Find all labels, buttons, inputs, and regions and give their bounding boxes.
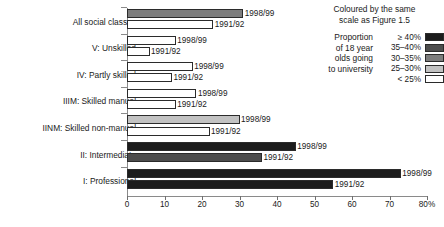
bar-value-label: 1991/92 — [174, 73, 204, 82]
x-axis-tick-label: 20 — [197, 200, 206, 209]
bar — [127, 89, 196, 98]
legend-range-label: < 25% — [398, 75, 421, 84]
bar-value-label: 1998/99 — [194, 62, 224, 71]
x-axis-tick-label: 50 — [310, 200, 319, 209]
x-axis-tick-label: 80% — [419, 200, 435, 209]
legend-range-label: 35–40% — [391, 43, 421, 52]
legend-row: 30–35% — [377, 53, 444, 64]
legend-description-line: of 18 year — [305, 43, 373, 54]
figure-grouped-bar-chart: 01020304050607080%All social classes1998… — [0, 0, 444, 227]
bar-value-label: 1998/99 — [245, 9, 275, 18]
x-axis-tick — [315, 196, 316, 200]
legend-swatch — [425, 33, 444, 41]
legend-swatch — [425, 75, 444, 83]
category-label: IIIM: Skilled manual — [63, 97, 136, 106]
legend-row: 25–30% — [377, 64, 444, 75]
bar-value-label: 1998/99 — [402, 169, 432, 178]
bar — [127, 180, 333, 189]
x-axis-tick — [427, 196, 428, 200]
x-axis-tick — [127, 196, 128, 200]
x-axis-tick — [165, 196, 166, 200]
legend-row: 35–40% — [377, 43, 444, 54]
x-axis-tick-label: 30 — [235, 200, 244, 209]
category-axis-tick — [121, 113, 127, 114]
x-axis-tick-label: 60 — [347, 200, 356, 209]
legend-swatch — [425, 54, 444, 62]
legend-body: Proportionof 18 yearolds goingto univers… — [305, 32, 444, 85]
legend: Coloured by the same scale as Figure 1.5… — [305, 4, 444, 85]
legend-description-line: to university — [305, 64, 373, 75]
bar-value-label: 1991/92 — [215, 20, 245, 29]
category-axis-tick — [121, 87, 127, 88]
x-axis-tick — [240, 196, 241, 200]
bar — [127, 36, 176, 45]
x-axis-tick — [352, 196, 353, 200]
bar-value-label: 1991/92 — [177, 100, 207, 109]
legend-range-label: 30–35% — [391, 54, 421, 63]
bar-value-label: 1998/99 — [198, 89, 228, 98]
x-axis-tick-label: 0 — [125, 200, 130, 209]
category-axis-tick — [121, 7, 127, 8]
x-axis-tick — [277, 196, 278, 200]
legend-description-line: Proportion — [305, 32, 373, 43]
legend-range-label: ≥ 40% — [398, 33, 421, 42]
category-axis-tick — [121, 60, 127, 61]
bar-value-label: 1998/99 — [177, 36, 207, 45]
bar — [127, 100, 176, 109]
legend-swatch — [425, 65, 444, 73]
bar — [127, 62, 193, 71]
legend-description: Proportionof 18 yearolds goingto univers… — [305, 32, 373, 74]
legend-description-line: olds going — [305, 53, 373, 64]
legend-row: ≥ 40% — [377, 32, 444, 43]
bar — [127, 20, 213, 29]
x-axis-tick — [202, 196, 203, 200]
legend-rows: ≥ 40%35–40%30–35%25–30%< 25% — [377, 32, 444, 85]
category-label: IINM: Skilled non-manual — [42, 124, 136, 133]
category-axis-tick — [121, 34, 127, 35]
legend-title-line-2: scale as Figure 1.5 — [305, 15, 444, 26]
bar — [127, 47, 150, 56]
legend-swatch — [425, 44, 444, 52]
x-axis-tick-label: 10 — [160, 200, 169, 209]
bar-value-label: 1991/92 — [335, 180, 365, 189]
bar — [127, 142, 296, 151]
bar-value-label: 1991/92 — [264, 153, 294, 162]
legend-range-label: 25–30% — [391, 64, 421, 73]
bar — [127, 127, 210, 136]
x-axis-tick — [390, 196, 391, 200]
category-axis-tick — [121, 167, 127, 168]
bar — [127, 73, 172, 82]
bar — [127, 9, 243, 18]
legend-title-line-1: Coloured by the same — [305, 4, 444, 15]
bar-value-label: 1991/92 — [211, 127, 241, 136]
legend-row: < 25% — [377, 74, 444, 85]
bar-value-label: 1998/99 — [241, 115, 271, 124]
bar — [127, 115, 240, 124]
bar — [127, 169, 401, 178]
category-axis-tick — [121, 140, 127, 141]
x-axis-tick-label: 40 — [272, 200, 281, 209]
bar-value-label: 1998/99 — [297, 142, 327, 151]
bar — [127, 153, 262, 162]
x-axis-tick-label: 70 — [385, 200, 394, 209]
bar-value-label: 1991/92 — [151, 47, 181, 56]
